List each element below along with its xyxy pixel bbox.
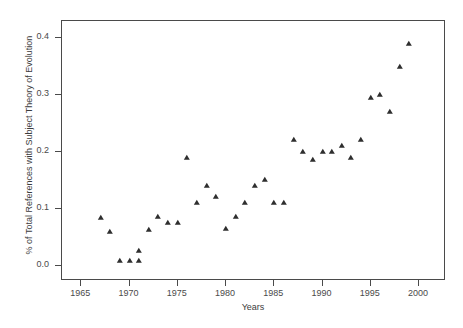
- x-tick-mark: [129, 280, 130, 286]
- data-point-marker: [377, 92, 383, 97]
- data-point-marker: [319, 149, 325, 154]
- data-point-marker: [242, 200, 248, 205]
- data-point-marker: [396, 63, 402, 68]
- y-tick-group: 0.2: [0, 151, 61, 152]
- clipped-title: [0, 0, 463, 5]
- scatter-plot-figure: % of Total References with Subject Theor…: [0, 0, 463, 328]
- x-tick-label: 1980: [205, 288, 245, 298]
- data-point-marker: [300, 149, 306, 154]
- x-tick-label: 1995: [350, 288, 390, 298]
- x-tick-mark: [273, 280, 274, 286]
- data-point-marker: [271, 200, 277, 205]
- data-point-marker: [232, 214, 238, 219]
- data-point-marker: [339, 143, 345, 148]
- data-point-marker: [368, 95, 374, 100]
- x-tick-label: 1965: [60, 288, 100, 298]
- data-point-marker: [194, 200, 200, 205]
- data-point-marker: [204, 183, 210, 188]
- data-point-marker: [155, 214, 161, 219]
- x-tick-mark: [418, 280, 419, 286]
- data-point-marker: [175, 220, 181, 225]
- x-tick-mark: [80, 280, 81, 286]
- y-tick-group: 0.1: [0, 208, 61, 209]
- data-point-marker: [310, 157, 316, 162]
- data-point-marker: [261, 177, 267, 182]
- y-tick-label: 0.4: [23, 31, 49, 41]
- x-tick-label: 1985: [253, 288, 293, 298]
- x-tick-label: 1970: [109, 288, 149, 298]
- data-point-marker: [358, 137, 364, 142]
- y-tick-label: 0.0: [23, 259, 49, 269]
- data-point-marker: [387, 109, 393, 114]
- y-tick-label: 0.1: [23, 202, 49, 212]
- data-point-marker: [252, 183, 258, 188]
- x-tick-label: 2000: [398, 288, 438, 298]
- x-tick-mark: [322, 280, 323, 286]
- data-point-marker: [281, 200, 287, 205]
- data-point-marker: [348, 154, 354, 159]
- data-point-marker: [184, 154, 190, 159]
- data-point-marker: [126, 258, 132, 263]
- data-point-marker: [117, 258, 123, 263]
- x-tick-mark: [177, 280, 178, 286]
- data-point-marker: [146, 227, 152, 232]
- data-point-marker: [213, 194, 219, 199]
- data-point-marker: [97, 215, 103, 220]
- data-point-marker: [406, 41, 412, 46]
- y-tick-group: 0.3: [0, 94, 61, 95]
- x-tick-label: 1975: [157, 288, 197, 298]
- data-point-marker: [136, 248, 142, 253]
- x-tick-mark: [225, 280, 226, 286]
- x-tick-label: 1990: [302, 288, 342, 298]
- data-point-marker: [165, 220, 171, 225]
- data-point-marker: [107, 228, 113, 233]
- data-point-marker: [223, 225, 229, 230]
- x-axis-label: Years: [61, 302, 445, 312]
- data-point-marker: [136, 258, 142, 263]
- plot-area: [61, 20, 445, 280]
- y-tick-group: 0.4: [0, 37, 61, 38]
- y-tick-label: 0.3: [23, 88, 49, 98]
- y-tick-label: 0.2: [23, 145, 49, 155]
- data-point-marker: [290, 137, 296, 142]
- x-tick-mark: [370, 280, 371, 286]
- data-point-marker: [329, 149, 335, 154]
- y-tick-group: 0.0: [0, 265, 61, 266]
